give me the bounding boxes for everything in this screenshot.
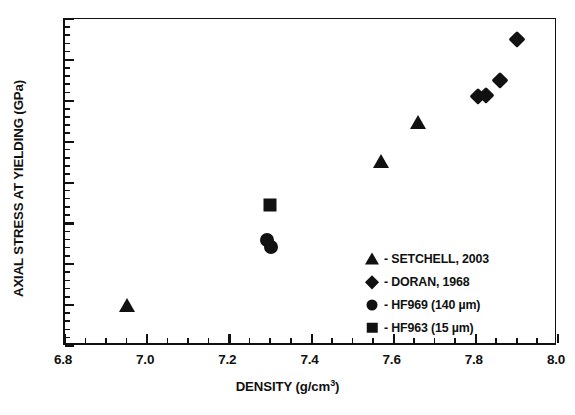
legend-item: - SETCHELL, 2003: [363, 247, 543, 270]
x-tick-label: 8.0: [533, 352, 575, 367]
legend-label: - DORAN, 1968: [384, 275, 470, 289]
x-tick-label: 7.0: [122, 352, 168, 367]
x-tick-minor: [167, 338, 169, 343]
y-tick-minor: [65, 26, 70, 28]
y-axis-title: AXIAL STRESS AT YIELDING (GPa): [11, 9, 26, 369]
x-tick-label: 7.4: [287, 352, 333, 367]
y-tick-major: [65, 222, 74, 224]
legend-item: - HF963 (15 µm): [363, 316, 543, 339]
y-tick-minor: [65, 288, 70, 290]
x-tick-label: 7.2: [204, 352, 250, 367]
y-tick-minor: [65, 231, 70, 233]
x-tick-minor: [331, 338, 333, 343]
circle-icon: [367, 299, 378, 310]
x-axis-title: DENSITY (g/cm3): [0, 378, 575, 394]
data-point-diamond: [509, 31, 525, 47]
legend-label: - SETCHELL, 2003: [384, 252, 489, 266]
legend-label: - HF969 (140 µm): [384, 298, 480, 312]
x-tick-minor: [249, 338, 251, 343]
x-tick-minor: [187, 338, 189, 343]
legend-marker-triangle-icon: [363, 249, 381, 269]
y-tick-minor: [65, 239, 70, 241]
y-tick-minor: [65, 190, 70, 192]
y-tick-major: [65, 100, 74, 102]
y-tick-minor: [65, 43, 70, 45]
data-point-diamond: [492, 72, 508, 88]
data-point-triangle: [373, 154, 389, 168]
legend-label: - HF963 (15 µm): [384, 321, 474, 335]
y-tick-major: [65, 345, 74, 347]
y-tick-minor: [65, 149, 70, 151]
triangle-icon: [365, 252, 379, 264]
y-tick-minor: [65, 75, 70, 77]
legend-marker-circle-icon: [363, 295, 381, 315]
y-tick-minor: [65, 34, 70, 36]
y-tick-minor: [65, 67, 70, 69]
y-tick-minor: [65, 157, 70, 159]
x-tick-major: [146, 334, 148, 343]
data-point-square: [264, 198, 277, 211]
x-tick-minor: [85, 338, 87, 343]
x-tick-minor: [208, 338, 210, 343]
y-tick-minor: [65, 320, 70, 322]
y-tick-minor: [65, 108, 70, 110]
y-tick-minor: [65, 173, 70, 175]
diamond-icon: [365, 275, 378, 288]
legend-marker-diamond-icon: [363, 272, 381, 292]
y-tick-minor: [65, 312, 70, 314]
y-tick-minor: [65, 329, 70, 331]
x-tick-minor: [269, 338, 271, 343]
x-tick-minor: [290, 338, 292, 343]
y-tick-minor: [65, 124, 70, 126]
x-tick-label: 7.8: [451, 352, 497, 367]
y-tick-minor: [65, 206, 70, 208]
x-axis-title-main: DENSITY (g/cm: [236, 379, 330, 394]
x-tick-label: 7.6: [369, 352, 415, 367]
legend-marker-square-icon: [363, 318, 381, 338]
x-tick-label: 6.8: [40, 352, 86, 367]
y-tick-major: [65, 18, 74, 20]
y-tick-minor: [65, 92, 70, 94]
y-tick-minor: [65, 280, 70, 282]
x-tick-major: [64, 334, 66, 343]
y-tick-minor: [65, 247, 70, 249]
y-tick-major: [65, 182, 74, 184]
x-tick-minor: [105, 338, 107, 343]
y-tick-minor: [65, 132, 70, 134]
y-tick-minor: [65, 296, 70, 298]
x-tick-major: [557, 334, 559, 343]
scatter-chart-figure: 1.01.52.02.53.03.54.04.55.0 6.87.07.27.4…: [0, 0, 575, 415]
data-point-triangle: [410, 115, 426, 129]
square-icon: [367, 322, 378, 333]
y-tick-minor: [65, 51, 70, 53]
y-tick-minor: [65, 165, 70, 167]
legend: - SETCHELL, 2003- DORAN, 1968- HF969 (14…: [363, 247, 543, 339]
data-point-circle: [264, 240, 278, 254]
y-tick-minor: [65, 271, 70, 273]
y-tick-major: [65, 141, 74, 143]
y-tick-minor: [65, 214, 70, 216]
y-tick-minor: [65, 255, 70, 257]
y-tick-major: [65, 59, 74, 61]
x-tick-minor: [352, 338, 354, 343]
y-tick-minor: [65, 83, 70, 85]
y-tick-minor: [65, 198, 70, 200]
x-tick-minor: [126, 338, 128, 343]
x-axis-title-tail: ): [335, 379, 339, 394]
legend-item: - DORAN, 1968: [363, 270, 543, 293]
data-point-triangle: [119, 298, 135, 312]
y-tick-minor: [65, 116, 70, 118]
x-tick-major: [228, 334, 230, 343]
y-tick-major: [65, 263, 74, 265]
legend-item: - HF969 (140 µm): [363, 293, 543, 316]
x-tick-major: [311, 334, 313, 343]
y-tick-major: [65, 304, 74, 306]
